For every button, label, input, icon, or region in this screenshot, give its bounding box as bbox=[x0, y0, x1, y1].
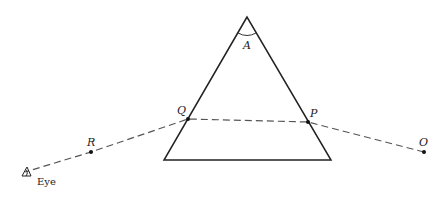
label-o: O bbox=[419, 136, 428, 149]
label-p: P bbox=[309, 107, 318, 120]
label-eye: Eye bbox=[37, 176, 56, 187]
prism-diagram: A O P Q R Eye bbox=[0, 0, 444, 197]
eye-icon bbox=[22, 167, 31, 176]
point-r bbox=[89, 150, 93, 154]
point-p bbox=[306, 120, 310, 124]
label-angle-a: A bbox=[242, 39, 251, 52]
point-o bbox=[422, 150, 426, 154]
label-q: Q bbox=[177, 104, 186, 117]
apex-angle-arc bbox=[238, 33, 256, 36]
label-r: R bbox=[86, 136, 95, 149]
point-q bbox=[186, 117, 190, 121]
light-ray bbox=[25, 119, 424, 172]
